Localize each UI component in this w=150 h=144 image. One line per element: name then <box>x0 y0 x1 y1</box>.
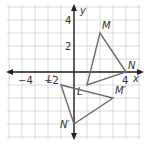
coordinate-plane: y x −4−2442 LMNL′M′N′ <box>0 0 150 144</box>
vertex-label: M <box>102 20 111 31</box>
vertex-label: M′ <box>115 85 127 96</box>
y-axis-down-arrow-icon <box>71 133 77 140</box>
vertex-label: L′ <box>47 74 56 85</box>
x-axis-label: x <box>132 73 139 84</box>
y-tick-label: 4 <box>65 15 71 26</box>
vertex-label: N′ <box>60 119 70 130</box>
x-axis-left-arrow-icon <box>6 69 13 75</box>
vertex-label: L <box>77 86 83 97</box>
x-tick-label: −4 <box>18 75 33 86</box>
y-axis-label: y <box>79 5 87 16</box>
vertex-label: N <box>128 60 136 71</box>
y-axis-up-arrow-icon <box>71 4 77 11</box>
y-tick-label: 2 <box>65 41 71 52</box>
